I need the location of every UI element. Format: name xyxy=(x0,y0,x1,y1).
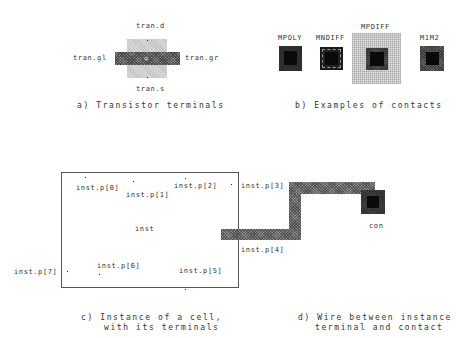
contact-mpdiff xyxy=(352,33,401,84)
terminal-label-p2: inst.p[2] xyxy=(174,182,217,190)
terminal-label-gate-right: tran.gr xyxy=(185,54,219,62)
caption-d-line1: d) Wire between instance xyxy=(298,313,452,323)
caption-c-line1: c) Instance of a cell, xyxy=(81,313,222,323)
terminal-dot-p5 xyxy=(185,289,186,290)
contact-label-mndiff: MNDIFF xyxy=(316,34,345,42)
terminal-label-source: tran.s xyxy=(136,85,165,93)
terminal-label-p4: inst.p[4] xyxy=(241,246,284,254)
contact-cut xyxy=(284,51,297,65)
contact-label-mpoly: MPOLY xyxy=(278,34,302,42)
terminal-label-p3: inst.p[3] xyxy=(241,182,284,190)
terminal-dot-p2 xyxy=(185,178,186,179)
contact-cut xyxy=(426,52,439,65)
terminal-dot-p6 xyxy=(99,274,100,275)
terminal-label-p5: inst.p[5] xyxy=(179,267,222,275)
terminal-dot-drain xyxy=(147,40,148,41)
terminal-dot-p1 xyxy=(133,181,134,182)
contact-m1m2 xyxy=(420,46,444,71)
terminal-dot-source xyxy=(147,77,148,78)
terminal-label-p7: inst.p[7] xyxy=(14,268,57,276)
contact-mpoly xyxy=(279,46,302,71)
caption-a: a) Transistor terminals xyxy=(77,101,225,111)
contact-cut xyxy=(367,196,379,208)
caption-d-line2: terminal and contact xyxy=(315,323,443,333)
center-marker-icon: ✲ xyxy=(144,54,149,63)
terminal-label-drain: tran.d xyxy=(136,22,165,30)
terminal-label-p0: inst.p[0] xyxy=(76,184,119,192)
contact-mndiff xyxy=(320,47,343,70)
caption-b: b) Examples of contacts xyxy=(295,101,443,111)
terminal-label-p1: inst.p[1] xyxy=(126,191,169,199)
terminal-label-gate-left: tran.gl xyxy=(73,54,107,62)
terminal-dot-p0 xyxy=(85,177,86,178)
instance-edge-over-wire xyxy=(237,229,238,240)
terminal-label-p6: inst.p[6] xyxy=(97,262,140,270)
terminal-dot-p7 xyxy=(67,271,68,272)
contact-label-mpdiff: MPDIFF xyxy=(361,23,390,31)
caption-c-line2: with its terminals xyxy=(104,323,220,333)
contact-cut xyxy=(370,52,384,66)
contact-label-m1m2: M1M2 xyxy=(420,34,439,42)
instance-name: inst xyxy=(135,225,154,233)
wire-contact xyxy=(361,190,385,214)
wire-contact-label: con xyxy=(369,222,383,230)
contact-cut xyxy=(325,52,338,65)
terminal-dot-p3 xyxy=(231,184,232,185)
